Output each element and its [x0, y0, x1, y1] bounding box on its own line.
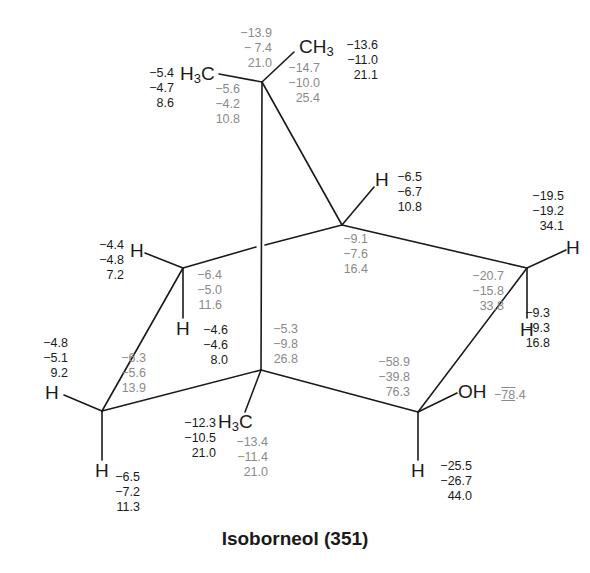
shift-oh-proton: −78.4: [494, 388, 526, 402]
shift-h3exo-proton: −19.5−19.234.1: [520, 189, 564, 234]
shift-h6endo-proton: −6.5−7.211.3: [110, 470, 140, 515]
isoborneol-diagram: CH3 H3C H H H H H H H H3C OH H −13.9− 7.…: [0, 0, 590, 573]
shift-h3endo-proton: −9.3−9.316.8: [514, 306, 550, 351]
shift-ch3b-proton: −5.4−4.78.6: [140, 66, 174, 111]
shift-c3-carbon: −20.7−15.833.8: [462, 269, 504, 314]
ch3-top-right-label: CH3: [299, 37, 334, 56]
shift-h6exo-proton: −4.8−5.19.2: [34, 336, 68, 381]
shift-c6-carbon: −6.3−5.613.9: [112, 351, 146, 396]
h-c6-exo-label: H: [45, 383, 59, 402]
h-c3-exo-label: H: [566, 238, 580, 257]
shift-ch3c-proton: −12.3−10.521.0: [174, 416, 216, 461]
bond-c1-ch3c: [245, 370, 261, 412]
bond-c4-c5-b: [183, 247, 256, 268]
bond-c6-hexo: [64, 395, 102, 411]
bond-c7-ch3b: [219, 74, 262, 82]
bond-c7-c1: [261, 82, 262, 370]
h3c-top-left-label: H3C: [180, 64, 215, 83]
oh-label: OH: [458, 382, 487, 401]
shift-h4-proton: −6.5−6.710.8: [386, 170, 422, 215]
h-c5-exo-label: H: [130, 241, 144, 260]
h-c5-endo-label: H: [176, 319, 190, 338]
h-c2-label: H: [411, 461, 425, 480]
shift-h5exo-proton: −4.4−4.87.2: [90, 238, 124, 283]
shift-c5-carbon: −6.4−5.011.6: [186, 268, 222, 313]
shift-h5endo-proton: −4.6−4.68.0: [194, 323, 228, 368]
bond-c4-c3: [342, 225, 527, 268]
shift-ch3b-carbon: −5.6−4.210.8: [208, 82, 240, 127]
shift-c1-carbon: −5.3−9.826.8: [264, 322, 298, 367]
shift-c4-carbon: −9.1−7.616.4: [332, 232, 368, 277]
bond-c4-c5-a: [265, 225, 342, 245]
bond-c4-h: [342, 187, 374, 225]
h3c-bottom-label: H3C: [218, 412, 253, 431]
shift-c2-carbon: −58.9−39.876.3: [368, 355, 410, 400]
bond-c5-hexo: [145, 253, 183, 268]
bond-c3-hexo: [527, 250, 566, 268]
shift-c7-carbon: −13.9− 7.421.0: [228, 26, 272, 71]
figure-caption: Isoborneol (351): [0, 528, 590, 550]
shift-ch3c-carbon: −13.4−11.421.0: [226, 435, 268, 480]
shift-h2-proton: −25.5−26.744.0: [430, 459, 472, 504]
shift-ch3a-proton: −13.6−11.021.1: [334, 38, 378, 83]
h-c6-endo-label: H: [95, 461, 109, 480]
bond-c2-oh: [418, 393, 457, 412]
shift-ch3a-carbon: −14.7−10.025.4: [278, 61, 320, 106]
